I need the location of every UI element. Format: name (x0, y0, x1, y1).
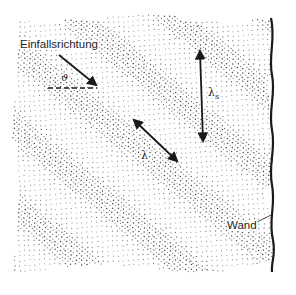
wall-label: Wand (227, 219, 257, 231)
wave-dot-field (12, 14, 273, 272)
wall-wavelength-label-main: λ (208, 86, 215, 99)
wave-diagram: Einfallsrichtung ϑ λ λ s Wand (0, 0, 296, 295)
wall-wavelength-label: λ s (208, 86, 219, 101)
wall-wavelength-label-sub: s (215, 92, 219, 101)
angle-theta-label: ϑ (61, 72, 68, 83)
incidence-direction-label: Einfallsrichtung (20, 38, 98, 50)
wall-line (271, 18, 274, 272)
wavelength-label: λ (141, 149, 148, 162)
wall-wavelength-arrow (200, 51, 203, 141)
